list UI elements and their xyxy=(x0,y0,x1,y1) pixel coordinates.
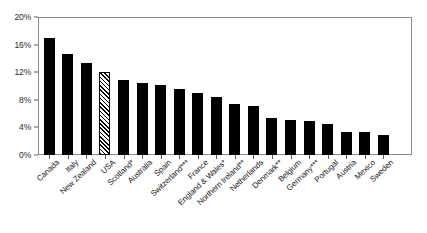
x-tick-label: Canada xyxy=(35,158,61,183)
bar-northern-ireland[interactable] xyxy=(229,104,240,155)
bar-slot xyxy=(318,17,337,155)
bar-slot xyxy=(263,17,282,155)
bar-denmark[interactable] xyxy=(266,118,277,155)
bar-belgium[interactable] xyxy=(285,120,296,155)
y-tick-label: 12% xyxy=(15,67,31,77)
bar-slot xyxy=(337,17,356,155)
bar-italy[interactable] xyxy=(62,54,73,155)
bar-slot xyxy=(226,17,245,155)
bar-portugal[interactable] xyxy=(322,124,333,155)
bar-slot xyxy=(300,17,319,155)
y-tick-label: 0% xyxy=(19,150,31,160)
y-tick-label: 16% xyxy=(15,40,31,50)
bar-slot xyxy=(133,17,152,155)
bar-slot xyxy=(77,17,96,155)
bar-usa[interactable] xyxy=(99,72,110,155)
bar-slot xyxy=(170,17,189,155)
bar-new-zealand[interactable] xyxy=(81,63,92,155)
bar-england-wales[interactable] xyxy=(211,97,222,155)
bar-germany[interactable] xyxy=(304,121,315,155)
y-tick-label: 20% xyxy=(15,12,31,22)
bar-australia[interactable] xyxy=(137,83,148,155)
bar-slot xyxy=(244,17,263,155)
y-axis: 0%4%8%12%16%20% xyxy=(0,17,38,155)
bar-slot xyxy=(374,17,393,155)
bar-slot xyxy=(151,17,170,155)
bar-switzerland[interactable] xyxy=(174,89,185,155)
bar-spain[interactable] xyxy=(155,85,166,155)
x-axis-labels: CanadaItalyNew ZealandUSAScotland*Austra… xyxy=(38,158,412,233)
bar-slot xyxy=(281,17,300,155)
bar-sweden[interactable] xyxy=(378,135,389,155)
bar-scotland[interactable] xyxy=(118,80,129,155)
bar-slot xyxy=(40,17,59,155)
bar-slot xyxy=(114,17,133,155)
bar-france[interactable] xyxy=(192,93,203,155)
y-tick-label: 8% xyxy=(19,95,31,105)
bar-slot xyxy=(207,17,226,155)
bar-austria[interactable] xyxy=(341,132,352,155)
bar-slot xyxy=(356,17,375,155)
bar-chart: 0%4%8%12%16%20% CanadaItalyNew ZealandUS… xyxy=(0,0,427,233)
bar-slot xyxy=(96,17,115,155)
bar-mexico[interactable] xyxy=(359,132,370,155)
bar-netherlands[interactable] xyxy=(248,106,259,155)
bar-canada[interactable] xyxy=(44,38,55,155)
y-tick-label: 4% xyxy=(19,122,31,132)
bar-slot xyxy=(188,17,207,155)
bars-layer xyxy=(38,17,412,155)
bar-slot xyxy=(59,17,78,155)
